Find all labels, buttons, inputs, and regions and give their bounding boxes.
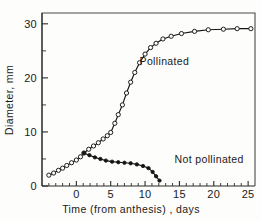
- data-point-marker: [47, 173, 51, 177]
- y-tick-label: 20: [24, 72, 37, 84]
- series-2: [82, 151, 161, 182]
- data-point-marker: [87, 147, 91, 151]
- x-tick-label: 10: [139, 188, 152, 200]
- data-point-marker: [169, 34, 173, 38]
- data-point-marker: [158, 179, 161, 182]
- data-point-marker: [147, 166, 150, 169]
- x-axis-ticks: [49, 181, 248, 186]
- data-point-marker: [65, 163, 69, 167]
- series-annotations: PollinatedNot pollinated: [140, 55, 244, 164]
- data-point-marker: [74, 158, 78, 162]
- x-tick-label: 25: [242, 188, 255, 200]
- diameter-vs-time-chart: 0510152025 0102030 PollinatedNot pollina…: [0, 0, 261, 221]
- series-label-2: Not pollinated: [175, 153, 244, 165]
- data-point-marker: [82, 151, 85, 154]
- y-axis-ticks: [42, 24, 48, 186]
- data-point-marker: [91, 144, 95, 148]
- data-point-marker: [133, 70, 137, 74]
- data-point-marker: [88, 153, 91, 156]
- data-point-marker: [161, 37, 165, 41]
- data-point-marker: [141, 164, 144, 167]
- y-axis-title: Diameter, mm: [3, 65, 15, 135]
- data-point-marker: [192, 29, 196, 33]
- x-tick-label: 5: [107, 188, 113, 200]
- data-point-marker: [123, 161, 126, 164]
- x-axis-tick-labels: 0510152025: [73, 188, 254, 200]
- data-point-marker: [221, 27, 225, 31]
- data-point-marker: [113, 121, 117, 125]
- y-tick-label: 0: [31, 180, 37, 192]
- data-point-marker: [120, 103, 124, 107]
- x-tick-label: 0: [73, 188, 79, 200]
- data-point-marker: [117, 161, 120, 164]
- data-point-marker: [129, 162, 132, 165]
- data-point-marker: [206, 28, 210, 32]
- data-point-marker: [249, 27, 253, 31]
- data-point-marker: [179, 31, 183, 35]
- data-point-marker: [110, 160, 113, 163]
- x-axis-title: Time (from anthesis) , days: [62, 203, 200, 215]
- data-point-marker: [69, 161, 73, 165]
- data-point-marker: [151, 170, 154, 173]
- data-point-marker: [61, 166, 65, 170]
- data-point-marker: [96, 141, 100, 145]
- y-tick-label: 30: [24, 18, 37, 30]
- data-point-marker: [148, 46, 152, 50]
- data-point-marker: [135, 163, 138, 166]
- data-point-marker: [52, 171, 56, 175]
- data-point-marker: [129, 80, 133, 84]
- data-point-marker: [116, 113, 120, 117]
- y-axis-tick-labels: 0102030: [24, 18, 37, 192]
- series-label-1: Pollinated: [140, 55, 190, 67]
- data-point-marker: [101, 137, 105, 141]
- y-tick-label: 10: [24, 126, 37, 138]
- figure-container: 0510152025 0102030 PollinatedNot pollina…: [0, 0, 261, 221]
- x-tick-label: 15: [173, 188, 186, 200]
- data-point-marker: [93, 156, 96, 159]
- data-point-marker: [124, 91, 128, 95]
- data-point-marker: [109, 130, 113, 134]
- data-point-marker: [235, 27, 239, 31]
- data-point-marker: [104, 159, 107, 162]
- data-point-marker: [99, 157, 102, 160]
- data-point-marker: [105, 134, 109, 138]
- data-point-marker: [154, 175, 157, 178]
- data-point-marker: [154, 41, 158, 45]
- data-point-marker: [78, 155, 82, 159]
- x-tick-label: 20: [207, 188, 220, 200]
- data-point-marker: [56, 168, 60, 172]
